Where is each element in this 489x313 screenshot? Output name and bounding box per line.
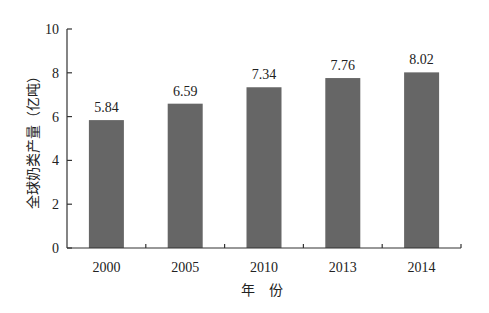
x-category-label: 2000 bbox=[92, 260, 120, 275]
bar-2013 bbox=[325, 78, 360, 248]
x-category-label: 2005 bbox=[171, 260, 199, 275]
bar-chart: 5.8420006.5920057.3420107.7620138.022014… bbox=[0, 0, 489, 313]
bar-value-label: 7.34 bbox=[252, 67, 277, 82]
y-tick-label: 2 bbox=[52, 197, 59, 212]
x-category-label: 2014 bbox=[408, 260, 436, 275]
bar-2005 bbox=[168, 104, 203, 248]
y-tick-label: 10 bbox=[45, 22, 59, 37]
x-category-label: 2013 bbox=[329, 260, 357, 275]
bar-value-label: 7.76 bbox=[331, 58, 356, 73]
y-tick-label: 8 bbox=[52, 66, 59, 81]
y-tick-label: 6 bbox=[52, 110, 59, 125]
y-tick-label: 0 bbox=[52, 241, 59, 256]
y-axis-title: 全球奶类产量（亿吨） bbox=[25, 69, 41, 209]
bar-2014 bbox=[404, 72, 439, 248]
y-tick-label: 4 bbox=[52, 153, 59, 168]
bar-2000 bbox=[89, 120, 124, 248]
bar-2010 bbox=[247, 87, 282, 248]
bar-value-label: 6.59 bbox=[173, 84, 198, 99]
x-axis-title: 年 份 bbox=[241, 282, 283, 298]
bars-group: 5.8420006.5920057.3420107.7620138.022014 bbox=[89, 52, 439, 275]
bar-value-label: 5.84 bbox=[94, 100, 119, 115]
x-category-label: 2010 bbox=[250, 260, 278, 275]
bar-value-label: 8.02 bbox=[409, 52, 434, 67]
